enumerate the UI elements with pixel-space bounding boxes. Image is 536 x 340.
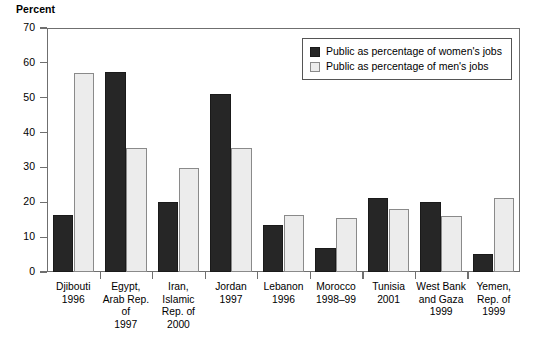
bar-men — [179, 168, 200, 272]
y-axis-tick-label: 70 — [23, 21, 35, 34]
legend-label-women: Public as percentage of women's jobs — [326, 45, 502, 58]
bar-women — [53, 215, 74, 273]
y-axis-tick-mark — [40, 202, 47, 203]
bar-men — [284, 215, 305, 273]
bar-group — [158, 28, 200, 272]
bar-men — [231, 148, 252, 272]
x-axis-tick-mark — [152, 272, 153, 279]
x-axis-tick-mark — [467, 272, 468, 279]
y-axis-tick-label: 60 — [23, 56, 35, 69]
y-axis-tick-label: 20 — [23, 195, 35, 208]
x-axis-labels: Djibouti 1996Egypt, Arab Rep. of 1997Ira… — [47, 281, 520, 337]
y-axis-tick-label: 30 — [23, 160, 35, 173]
bar-men — [441, 216, 462, 272]
x-axis-category-label: Tunisia 2001 — [362, 281, 415, 306]
bar-men — [389, 209, 410, 272]
bar-women — [368, 198, 389, 272]
bar-women — [473, 254, 494, 272]
y-axis-tick-label: 0 — [29, 265, 35, 278]
y-axis-tick-mark — [40, 132, 47, 133]
bar-group — [263, 28, 305, 272]
bar-women — [420, 202, 441, 272]
x-axis-tick-mark — [100, 272, 101, 279]
bar-women — [263, 225, 284, 272]
y-axis-tick-mark — [40, 27, 47, 28]
legend-item-men: Public as percentage of men's jobs — [310, 59, 502, 74]
legend: Public as percentage of women's jobs Pub… — [302, 38, 512, 80]
y-axis-tick-mark — [40, 237, 47, 238]
legend-swatch-women-icon — [310, 47, 320, 57]
bar-group — [210, 28, 252, 272]
x-axis-tick-mark — [205, 272, 206, 279]
x-axis-tick-mark — [257, 272, 258, 279]
x-axis-category-label: Jordan 1997 — [205, 281, 258, 306]
y-axis-tick-label: 50 — [23, 91, 35, 104]
y-axis-tick-mark — [40, 97, 47, 98]
legend-swatch-men-icon — [310, 62, 320, 72]
bar-chart: Percent 010203040506070 Djibouti 1996Egy… — [0, 0, 536, 340]
legend-item-women: Public as percentage of women's jobs — [310, 44, 502, 59]
bar-group — [53, 28, 95, 272]
y-axis-tick-mark — [40, 62, 47, 63]
x-axis-category-label: Iran, Islamic Rep. of 2000 — [152, 281, 205, 331]
x-axis-category-label: Lebanon 1996 — [257, 281, 310, 306]
bar-men — [494, 198, 515, 272]
y-axis-tick-mark — [40, 167, 47, 168]
bar-men — [126, 148, 147, 272]
y-axis-tick-label: 40 — [23, 126, 35, 139]
bar-women — [105, 72, 126, 272]
x-axis-tick-mark — [310, 272, 311, 279]
x-axis-tick-mark — [362, 272, 363, 279]
bar-women — [158, 202, 179, 272]
bar-women — [315, 248, 336, 272]
bar-group — [105, 28, 147, 272]
x-axis-category-label: Yemen, Rep. of 1999 — [467, 281, 520, 319]
x-axis-category-label: West Bank and Gaza 1999 — [415, 281, 468, 319]
x-axis-tick-mark — [415, 272, 416, 279]
x-axis-category-label: Djibouti 1996 — [47, 281, 100, 306]
y-axis-title: Percent — [16, 3, 55, 15]
bar-women — [210, 94, 231, 272]
x-axis-category-label: Egypt, Arab Rep. of 1997 — [100, 281, 153, 331]
legend-label-men: Public as percentage of men's jobs — [326, 60, 489, 73]
bar-men — [336, 218, 357, 272]
y-axis-tick-mark — [40, 271, 47, 272]
x-axis-category-label: Morocco 1998–99 — [310, 281, 363, 306]
y-axis-tick-label: 10 — [23, 230, 35, 243]
bar-men — [74, 73, 95, 272]
